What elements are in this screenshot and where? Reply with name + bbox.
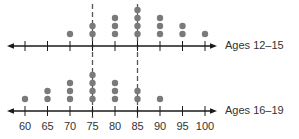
data-dot xyxy=(179,31,185,37)
data-dot xyxy=(89,72,95,78)
data-dot xyxy=(112,96,118,102)
data-dot xyxy=(44,88,50,94)
arrow-right-icon xyxy=(210,43,217,49)
data-dot xyxy=(22,96,28,102)
tick-label-90: 90 xyxy=(154,120,166,132)
data-dot xyxy=(112,80,118,86)
data-dot xyxy=(89,80,95,86)
data-dot xyxy=(157,15,163,21)
dot-plot xyxy=(0,0,299,139)
data-dot xyxy=(67,96,73,102)
tick-label-95: 95 xyxy=(176,120,188,132)
data-dot xyxy=(134,15,140,21)
data-dot xyxy=(112,31,118,37)
data-dot xyxy=(202,31,208,37)
data-dot xyxy=(89,88,95,94)
axis-ages-12-15 xyxy=(7,41,217,51)
series-label-ages-16-19: Ages 16–19 xyxy=(225,104,284,116)
data-dot xyxy=(134,31,140,37)
axis-ages-16-19 xyxy=(7,106,217,116)
data-dot xyxy=(112,15,118,21)
tick-label-70: 70 xyxy=(64,120,76,132)
data-dot xyxy=(157,96,163,102)
tick-label-100: 100 xyxy=(196,120,214,132)
data-dot xyxy=(134,23,140,29)
tick-label-65: 65 xyxy=(41,120,53,132)
data-dot xyxy=(67,88,73,94)
data-dot xyxy=(157,23,163,29)
data-dot xyxy=(157,31,163,37)
tick-label-75: 75 xyxy=(86,120,98,132)
data-dot xyxy=(44,96,50,102)
data-dot xyxy=(112,88,118,94)
arrow-left-icon xyxy=(7,108,14,114)
data-dot xyxy=(134,96,140,102)
tick-label-80: 80 xyxy=(109,120,121,132)
tick-label-85: 85 xyxy=(131,120,143,132)
arrow-left-icon xyxy=(7,43,14,49)
data-dot xyxy=(134,7,140,13)
series-label-ages-12-15: Ages 12–15 xyxy=(225,39,284,51)
arrow-right-icon xyxy=(210,108,217,114)
data-dot xyxy=(179,23,185,29)
data-dot xyxy=(89,31,95,37)
data-dot xyxy=(89,23,95,29)
data-dot xyxy=(134,88,140,94)
tick-label-60: 60 xyxy=(19,120,31,132)
data-dot xyxy=(112,23,118,29)
data-dot xyxy=(67,31,73,37)
data-dot xyxy=(89,96,95,102)
data-dot xyxy=(67,80,73,86)
